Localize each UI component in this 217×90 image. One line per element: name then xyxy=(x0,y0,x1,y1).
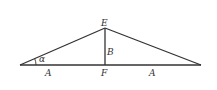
label-right-half-a: A xyxy=(148,68,156,78)
right-side xyxy=(105,28,201,65)
label-left-half-a: A xyxy=(44,68,52,78)
label-altitude-b: B xyxy=(106,47,114,57)
label-angle-alpha: α xyxy=(39,54,45,64)
angle-arc xyxy=(35,59,36,65)
triangle-diagram: E B F α A A xyxy=(0,0,217,90)
left-side xyxy=(20,28,105,65)
label-apex-e: E xyxy=(100,18,108,28)
label-foot-f: F xyxy=(100,68,108,78)
